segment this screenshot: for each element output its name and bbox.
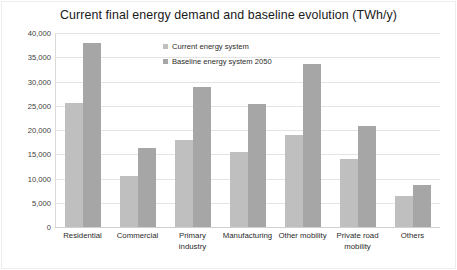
x-axis-baseline (55, 227, 440, 228)
bar-baseline-energy-system-2050 (138, 148, 156, 227)
y-axis-tick-label: 0 (3, 223, 51, 232)
bar-group (330, 33, 385, 227)
bar-current-energy-system (230, 152, 248, 227)
x-axis-tick-label: Other mobility (275, 231, 330, 242)
x-axis-tick-label: Primary industry (165, 231, 220, 252)
bar-group (385, 33, 440, 227)
x-axis-tick-label: Others (385, 231, 440, 242)
legend-swatch-icon (163, 44, 168, 49)
bar-current-energy-system (120, 176, 138, 227)
bar-baseline-energy-system-2050 (248, 104, 266, 227)
y-axis-tick-label: 40,000 (3, 29, 51, 38)
y-axis-tick-labels: 40,00035,00030,00025,00020,00015,00010,0… (0, 0, 51, 270)
bar-baseline-energy-system-2050 (83, 43, 101, 227)
bar-current-energy-system (285, 135, 303, 227)
bar-current-energy-system (395, 196, 413, 227)
bar-current-energy-system (175, 140, 193, 227)
y-axis-tick-label: 20,000 (3, 126, 51, 135)
bar-baseline-energy-system-2050 (193, 87, 211, 227)
legend-item-label: Current energy system (172, 42, 249, 51)
legend-item: Baseline energy system 2050 (163, 57, 313, 66)
x-axis-tick-label: Manufacturing (220, 231, 275, 242)
chart-figure: Current final energy demand and baseline… (0, 0, 457, 270)
bar-baseline-energy-system-2050 (303, 64, 321, 227)
x-axis-tick-label: Commercial (110, 231, 165, 242)
x-axis-tick-label: Private road mobility (330, 231, 385, 252)
bar-current-energy-system (65, 103, 83, 227)
y-axis-tick-label: 15,000 (3, 150, 51, 159)
bar-current-energy-system (340, 159, 358, 227)
y-axis-tick-label: 25,000 (3, 101, 51, 110)
x-axis-tick-label: Residential (55, 231, 110, 242)
y-axis-tick-label: 10,000 (3, 174, 51, 183)
legend-item-label: Baseline energy system 2050 (172, 57, 272, 66)
bar-group (55, 33, 110, 227)
bar-group (110, 33, 165, 227)
y-axis-tick-label: 35,000 (3, 53, 51, 62)
y-axis-tick-label: 5,000 (3, 198, 51, 207)
y-axis-tick-label: 30,000 (3, 77, 51, 86)
chart-title: Current final energy demand and baseline… (0, 8, 457, 22)
chart-legend: Current energy systemBaseline energy sys… (163, 42, 313, 72)
legend-swatch-icon (163, 59, 168, 64)
x-axis-tick-labels: ResidentialCommercialPrimary industryMan… (55, 231, 440, 267)
legend-item: Current energy system (163, 42, 313, 51)
bar-baseline-energy-system-2050 (358, 126, 376, 227)
bar-baseline-energy-system-2050 (413, 185, 431, 227)
